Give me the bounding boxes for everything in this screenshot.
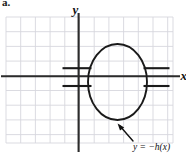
- graph-canvas: y x y = −h(x): [0, 0, 186, 158]
- grid-lines: [6, 17, 173, 143]
- annotation-arrow: [118, 123, 133, 141]
- curve-annotation-label: y = −h(x): [132, 142, 170, 153]
- x-axis-label: x: [180, 68, 187, 83]
- figure-panel: a.: [0, 0, 186, 158]
- y-axis-label: y: [71, 2, 79, 17]
